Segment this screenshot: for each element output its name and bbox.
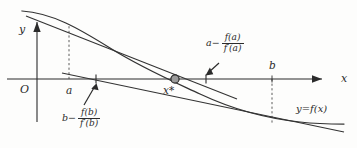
newton-method-diagram	[0, 0, 357, 148]
newton-b-numerator: f(b)	[79, 108, 99, 117]
label-a: a	[66, 85, 72, 96]
x-axis-label: x	[341, 73, 347, 84]
expression-newton-from-a: a− f(a) f′(a)	[206, 33, 245, 53]
y-axis-arrowhead	[33, 22, 40, 32]
root-marker-group	[171, 75, 179, 83]
newton-a-lead: a−	[206, 38, 221, 48]
newton-a-denominator: f′(a)	[222, 44, 244, 53]
label-curve-equation: y=f(x)	[296, 104, 327, 114]
x-axis-arrowhead	[312, 75, 322, 83]
newton-b-denominator: f′(b)	[78, 119, 100, 128]
tangent-line-at-a	[26, 16, 237, 99]
expression-newton-from-b: b− f(b) f′(b)	[62, 108, 101, 128]
newton-b-fraction: f(b) f′(b)	[77, 108, 101, 128]
label-root-x-star: x*	[163, 85, 174, 96]
label-b: b	[269, 60, 276, 71]
origin-label: O	[20, 84, 29, 95]
newton-b-lead: b−	[62, 113, 77, 123]
axes-group	[7, 22, 322, 122]
newton-a-numerator: f(a)	[223, 33, 243, 42]
tangent-line-at-a-group	[26, 16, 237, 99]
y-axis-label: y	[19, 24, 25, 35]
arrow-head-to-newton-b-tick	[91, 83, 98, 90]
root-marker-circle	[171, 75, 179, 83]
newton-a-fraction: f(a) f′(a)	[221, 33, 245, 53]
